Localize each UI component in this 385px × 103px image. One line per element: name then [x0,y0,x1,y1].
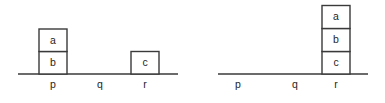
position-label-p: p [50,78,56,90]
block-c: c [131,52,159,75]
block-a: a [322,6,350,29]
position-label-p: p [235,78,241,90]
position-label-r: r [143,78,147,90]
block-b-label: b [333,33,339,45]
blocks-world-figure: b a c p q r c b [0,0,385,103]
position-label-r: r [334,78,338,90]
block-c-label: c [142,56,147,68]
goal-state-panel: c b a p q r [193,0,385,103]
block-b: b [39,52,67,75]
block-c: c [322,52,350,75]
block-c-label: c [333,56,338,68]
block-b: b [322,29,350,52]
initial-state-panel: b a c p q r [0,0,193,103]
block-a-label: a [50,34,56,46]
block-b-label: b [50,56,56,68]
block-a-label: a [333,10,339,22]
initial-state-diagram: b a c p q r [0,0,193,103]
block-a: a [39,29,67,52]
position-label-q: q [97,78,103,90]
position-label-q: q [292,78,298,90]
goal-state-diagram: c b a p q r [193,0,385,103]
